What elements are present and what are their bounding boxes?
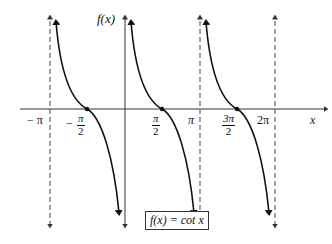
cot-branch-2 [131, 22, 194, 213]
y-axis-label: f(x) [97, 12, 115, 25]
tick-label-pi: π [188, 114, 194, 126]
cot-graph [0, 0, 332, 244]
tick-label-three-half-pi: 3π 2 [222, 113, 235, 137]
tick-label-neg-sign: − [66, 116, 73, 131]
tick-label-2pi: 2π [257, 114, 269, 126]
tick-label-neg-half-pi: π 2 [77, 113, 85, 137]
x-axis-label: x [310, 114, 315, 126]
tick-label-neg-pi: − π [27, 114, 43, 126]
zero-point [235, 107, 239, 111]
zero-point [160, 107, 164, 111]
function-caption: f(x) = cot x [145, 211, 209, 230]
zero-point [85, 107, 89, 111]
tick-label-half-pi: π 2 [152, 113, 160, 137]
